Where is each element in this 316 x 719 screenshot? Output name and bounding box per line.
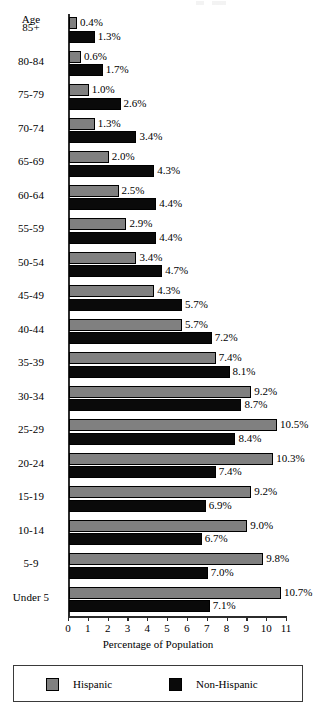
- bar-value-label: 4.4%: [156, 231, 182, 244]
- bar-wrapper: 2.5%: [69, 185, 316, 197]
- category-label: 15-19: [0, 490, 62, 503]
- bar-non-hispanic: [69, 198, 156, 210]
- bar-wrapper: 7.2%: [69, 332, 316, 344]
- bar-group: 7.4%8.1%: [69, 352, 316, 382]
- bar-hispanic: [69, 218, 126, 230]
- bar-wrapper: 10.7%: [69, 587, 316, 599]
- bar-non-hispanic: [69, 131, 136, 143]
- bar-hispanic: [69, 118, 95, 130]
- bar-wrapper: 1.0%: [69, 84, 316, 96]
- bar-non-hispanic: [69, 433, 235, 445]
- bar-value-label: 5.7%: [182, 318, 208, 331]
- bar-wrapper: 4.3%: [69, 165, 316, 177]
- bar-wrapper: 7.1%: [69, 600, 316, 612]
- bar-wrapper: 4.4%: [69, 198, 316, 210]
- bar-wrapper: 4.3%: [69, 285, 316, 297]
- bar-group: 0.4%1.3%: [69, 17, 316, 47]
- bar-hispanic: [69, 252, 136, 264]
- bar-value-label: 10.5%: [277, 418, 308, 431]
- legend-label: Hispanic: [73, 678, 112, 691]
- bar-non-hispanic: [69, 399, 241, 411]
- bar-wrapper: 1.3%: [69, 31, 316, 43]
- bar-hispanic: [69, 486, 251, 498]
- bar-group: 9.0%6.7%: [69, 520, 316, 550]
- bar-hispanic: [69, 352, 216, 364]
- bar-row: 75-791.0%2.6%: [0, 81, 316, 115]
- x-axis-title: Percentage of Population: [0, 638, 316, 650]
- bar-value-label: 9.8%: [263, 552, 289, 565]
- bar-value-label: 7.2%: [212, 331, 238, 344]
- bar-value-label: 6.9%: [206, 499, 232, 512]
- bar-hispanic: [69, 151, 109, 163]
- bar-row: 10-149.0%6.7%: [0, 517, 316, 551]
- legend-swatch-icon: [46, 678, 59, 691]
- bar-group: 3.4%4.7%: [69, 252, 316, 282]
- bar-wrapper: 5.7%: [69, 319, 316, 331]
- bar-group: 10.3%7.4%: [69, 453, 316, 483]
- bar-non-hispanic: [69, 98, 121, 110]
- bar-wrapper: 7.0%: [69, 567, 316, 579]
- bar-wrapper: 1.7%: [69, 64, 316, 76]
- bar-hispanic: [69, 520, 247, 532]
- bar-row: 55-592.9%4.4%: [0, 215, 316, 249]
- bar-hispanic: [69, 185, 119, 197]
- bar-value-label: 1.3%: [95, 30, 121, 43]
- bar-group: 0.6%1.7%: [69, 51, 316, 81]
- category-label: 60-64: [0, 189, 62, 202]
- bar-non-hispanic: [69, 600, 210, 612]
- bar-value-label: 5.7%: [182, 298, 208, 311]
- bar-group: 2.0%4.3%: [69, 151, 316, 181]
- category-label: 35-39: [0, 356, 62, 369]
- bar-non-hispanic: [69, 265, 162, 277]
- bar-group: 10.7%7.1%: [69, 587, 316, 617]
- bar-value-label: 6.7%: [202, 532, 228, 545]
- bar-group: 2.9%4.4%: [69, 218, 316, 248]
- bar-wrapper: 2.6%: [69, 98, 316, 110]
- category-label: 75-79: [0, 88, 62, 101]
- category-label: 30-34: [0, 390, 62, 403]
- scan-artifact: [196, 1, 242, 5]
- bar-wrapper: 9.0%: [69, 520, 316, 532]
- bar-wrapper: 8.4%: [69, 433, 316, 445]
- bar-row: 45-494.3%5.7%: [0, 282, 316, 316]
- bar-value-label: 1.0%: [89, 83, 115, 96]
- bar-wrapper: 9.2%: [69, 486, 316, 498]
- bar-hispanic: [69, 319, 182, 331]
- bar-row: Under 510.7%7.1%: [0, 584, 316, 618]
- bar-group: 1.3%3.4%: [69, 118, 316, 148]
- bar-value-label: 3.4%: [136, 130, 162, 143]
- bar-value-label: 8.4%: [235, 432, 261, 445]
- category-label: 50-54: [0, 256, 62, 269]
- category-label: 20-24: [0, 457, 62, 470]
- bar-row: 80-840.6%1.7%: [0, 48, 316, 82]
- bar-non-hispanic: [69, 533, 202, 545]
- bar-hispanic: [69, 386, 251, 398]
- bar-value-label: 10.7%: [281, 586, 312, 599]
- bar-wrapper: 0.6%: [69, 51, 316, 63]
- bar-non-hispanic: [69, 64, 103, 76]
- bar-non-hispanic: [69, 31, 95, 43]
- bar-row: 65-692.0%4.3%: [0, 148, 316, 182]
- bar-value-label: 7.1%: [210, 599, 236, 612]
- category-label: 10-14: [0, 524, 62, 537]
- bar-group: 10.5%8.4%: [69, 419, 316, 449]
- bar-value-label: 1.7%: [103, 63, 129, 76]
- legend-label: Non-Hispanic: [196, 678, 258, 691]
- bar-wrapper: 4.4%: [69, 232, 316, 244]
- bar-value-label: 9.2%: [251, 385, 277, 398]
- bar-value-label: 7.0%: [208, 566, 234, 579]
- bar-value-label: 3.4%: [136, 251, 162, 264]
- bar-value-label: 0.6%: [81, 50, 107, 63]
- bar-hispanic: [69, 419, 277, 431]
- bar-value-label: 1.3%: [95, 117, 121, 130]
- population-chart: Age 85+0.4%1.3%80-840.6%1.7%75-791.0%2.6…: [0, 0, 316, 640]
- bar-wrapper: 9.2%: [69, 386, 316, 398]
- bar-wrapper: 7.4%: [69, 352, 316, 364]
- bar-hispanic: [69, 587, 281, 599]
- bar-hispanic: [69, 553, 263, 565]
- bar-row: 15-199.2%6.9%: [0, 483, 316, 517]
- bar-row: 60-642.5%4.4%: [0, 182, 316, 216]
- bar-non-hispanic: [69, 299, 182, 311]
- bar-wrapper: 10.5%: [69, 419, 316, 431]
- bar-row: 40-445.7%7.2%: [0, 316, 316, 350]
